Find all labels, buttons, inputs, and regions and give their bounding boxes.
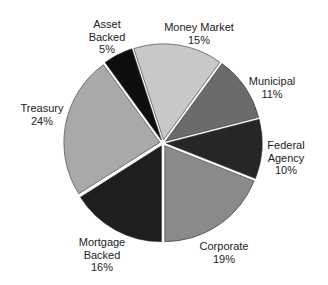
label-mortgage-backed: Mortgage Backed 16% <box>79 236 125 274</box>
label-line: Backed <box>79 249 125 262</box>
label-line: Asset <box>89 18 126 31</box>
label-line: 11% <box>249 88 295 101</box>
label-line: 19% <box>200 253 249 266</box>
label-line: 10% <box>267 164 304 177</box>
label-line: 16% <box>79 261 125 274</box>
label-asset-backed: Asset Backed 5% <box>89 18 126 56</box>
label-line: Municipal <box>249 75 295 88</box>
label-line: Agency <box>267 152 304 165</box>
label-line: 5% <box>89 43 126 56</box>
label-line: 24% <box>21 115 64 128</box>
label-federal-agency: Federal Agency 10% <box>267 139 304 177</box>
label-line: Mortgage <box>79 236 125 249</box>
label-line: Federal <box>267 139 304 152</box>
label-treasury: Treasury 24% <box>21 102 64 127</box>
label-line: Backed <box>89 31 126 44</box>
label-line: Corporate <box>200 240 249 253</box>
label-municipal: Municipal 11% <box>249 75 295 100</box>
label-corporate: Corporate 19% <box>200 240 249 265</box>
label-line: 15% <box>164 34 234 47</box>
label-line: Treasury <box>21 102 64 115</box>
label-money-market: Money Market 15% <box>164 21 234 46</box>
label-line: Money Market <box>164 21 234 34</box>
